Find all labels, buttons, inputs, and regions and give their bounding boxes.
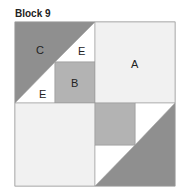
label-e-upper: E: [78, 45, 85, 57]
piece-b-square-lower: [95, 103, 135, 145]
label-b: B: [71, 77, 78, 89]
label-c: C: [36, 44, 44, 56]
label-a: A: [131, 58, 139, 70]
label-e-lower: E: [39, 88, 46, 100]
quilt-block-diagram: C E E B A: [0, 0, 185, 196]
piece-a-square-lower: [15, 103, 95, 186]
